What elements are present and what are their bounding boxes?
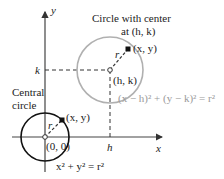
central-circle-title-line1: Central: [12, 86, 44, 98]
central-point-label: (x, y): [66, 111, 90, 124]
translated-circle-point: [126, 47, 131, 52]
translated-radius-label: r: [115, 48, 120, 60]
central-circle-point: [60, 118, 65, 123]
translated-circle-equation: (x − h)² + (y − k)² = r²: [118, 92, 216, 105]
translated-circle-title-line2: at (h, k): [121, 25, 156, 38]
central-circle-title-line2: circle: [12, 99, 37, 111]
x-axis-label: x: [155, 142, 161, 154]
h-label: h: [107, 141, 113, 153]
central-circle-equation: x² + y² = r²: [56, 160, 105, 172]
circle-equation-diagram: x y k h r (h, k) (x, y) Circle with cent…: [0, 0, 224, 179]
central-radius-label: r: [48, 119, 53, 131]
translated-center-label: (h, k): [113, 74, 137, 87]
central-center-label: (0, 0): [46, 140, 70, 153]
translated-circle-title-line1: Circle with center: [92, 12, 171, 24]
y-axis-label: y: [50, 4, 56, 16]
translated-center-point: [108, 68, 113, 73]
translated-point-label: (x, y): [133, 42, 157, 55]
central-center-point: [43, 135, 48, 140]
k-label: k: [35, 64, 41, 76]
